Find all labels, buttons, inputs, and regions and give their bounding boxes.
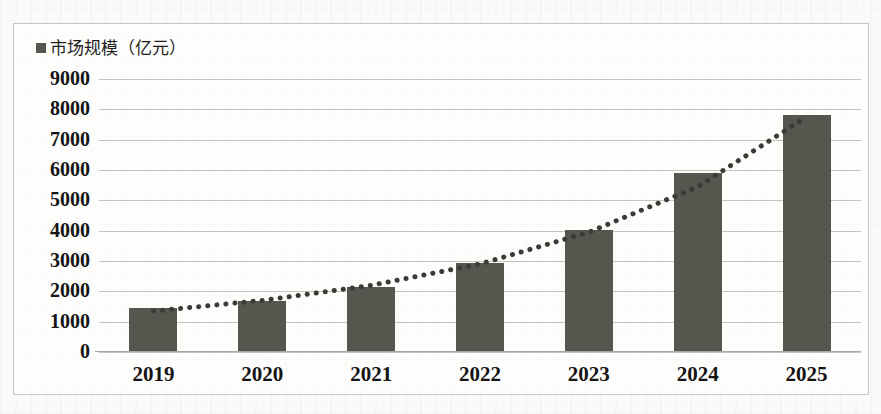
y-axis-tick-label: 9000 — [50, 67, 90, 90]
y-axis-tick-label: 3000 — [50, 249, 90, 272]
bar — [456, 263, 504, 352]
x-axis-line — [95, 351, 861, 352]
x-axis-tick-label: 2019 — [132, 362, 174, 387]
x-axis-tick-label: 2021 — [350, 362, 392, 387]
bar — [565, 230, 613, 352]
bar — [347, 287, 395, 352]
bar — [674, 173, 722, 352]
y-axis-tick-label: 8000 — [50, 97, 90, 120]
x-axis-tick-label: 2025 — [786, 362, 828, 387]
x-axis-tick-label: 2020 — [241, 362, 283, 387]
legend-label: 市场规模（亿元） — [50, 34, 186, 59]
bar — [783, 115, 831, 352]
y-axis-tick-label: 7000 — [50, 128, 90, 151]
y-axis-tick-label: 2000 — [50, 279, 90, 302]
y-axis-tick-label: 4000 — [50, 219, 90, 242]
chart-container: 市场规模（亿元） 9000800070006000500040003000200… — [13, 23, 869, 395]
y-axis-tick-label: 1000 — [50, 310, 90, 333]
bar — [129, 308, 177, 352]
legend-swatch-icon — [36, 43, 46, 53]
y-axis-tick-label: 5000 — [50, 188, 90, 211]
x-axis-tick-label: 2022 — [459, 362, 501, 387]
chart-legend: 市场规模（亿元） — [36, 34, 186, 59]
bar-series — [99, 79, 861, 352]
x-axis-tick-label: 2023 — [568, 362, 610, 387]
y-axis-tick-label: 0 — [80, 340, 90, 363]
y-axis-tick-label: 6000 — [50, 158, 90, 181]
x-axis-tick-label: 2024 — [677, 362, 719, 387]
plot-area: 9000800070006000500040003000200010000 — [99, 79, 861, 352]
x-axis-tick-labels: 2019202020212022202320242025 — [99, 362, 861, 392]
gridline — [99, 352, 861, 353]
bar — [238, 301, 286, 352]
